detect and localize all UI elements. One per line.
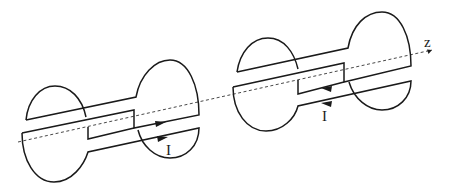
z-axis-arrowhead (427, 50, 432, 55)
left-coil-upper-loop (22, 60, 199, 133)
z-axis-label: z (424, 34, 431, 50)
z-axis (18, 50, 432, 142)
left-coil-current-label: I (166, 142, 171, 158)
left-coil-current-arrow-upper (155, 121, 166, 127)
left-coil-lower-loop (22, 127, 199, 182)
right-coil: I (233, 12, 411, 131)
right-coil-upper-loop (233, 12, 411, 87)
diagram-canvas: z I I (0, 0, 449, 192)
right-coil-current-arrow-lower (321, 101, 332, 107)
right-coil-current-label: I (322, 108, 327, 124)
